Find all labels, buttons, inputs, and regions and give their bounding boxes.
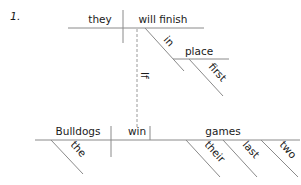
top-subject: they bbox=[88, 13, 111, 25]
object-modifier-3: two bbox=[278, 138, 300, 160]
bottom-verb: win bbox=[128, 125, 146, 137]
object-modifier-1: their bbox=[203, 138, 229, 165]
object-modifier: first bbox=[207, 60, 230, 83]
bottom-object: games bbox=[205, 125, 240, 137]
bottom-subject: Bulldogs bbox=[56, 125, 101, 137]
top-verb: will finish bbox=[139, 13, 188, 25]
connector-word: If bbox=[139, 72, 151, 79]
preposition-line bbox=[145, 28, 184, 71]
sentence-diagram: 1. they will finish in place first If Bu… bbox=[0, 0, 301, 185]
object-modifier-2: last bbox=[241, 138, 263, 160]
prep-object: place bbox=[185, 45, 213, 57]
preposition: in bbox=[162, 33, 177, 48]
subject-modifier: the bbox=[69, 138, 89, 159]
item-number: 1. bbox=[10, 10, 21, 23]
